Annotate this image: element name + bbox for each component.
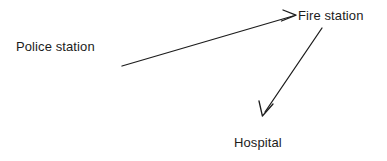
- node-label-fire-station: Fire station: [298, 8, 364, 23]
- arrow-shaft: [122, 16, 293, 66]
- node-label-hospital: Hospital: [234, 135, 282, 150]
- arrow-shaft: [265, 28, 322, 112]
- arrow-police-station-to-fire-station: [122, 10, 296, 66]
- arrow-fire-station-to-hospital: [259, 28, 322, 116]
- diagram-canvas: Police station Fire station Hospital: [0, 0, 387, 161]
- diagram-svg: [0, 0, 387, 161]
- node-label-police-station: Police station: [16, 39, 95, 54]
